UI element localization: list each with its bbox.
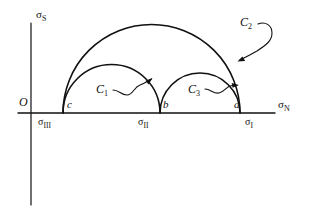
sigma-subscript-i: I [250, 121, 253, 130]
circle-label-c1: C1 [96, 83, 108, 98]
c1-letter: C [96, 82, 104, 96]
diagram-canvas [0, 0, 310, 211]
tick-label-sigma-i: σI [245, 117, 253, 130]
c2-subscript: 2 [248, 22, 252, 31]
mohr-circle-figure: σS σN O c b a σIII σII σI C1 C2 C3 [0, 0, 310, 211]
shear-stress-axis-label: σS [36, 9, 46, 23]
point-label-c: c [67, 99, 72, 110]
point-label-b: b [163, 99, 169, 110]
c3-subscript: 3 [196, 89, 200, 98]
c1-subscript: 1 [104, 89, 108, 98]
sigma-subscript-iii: III [43, 121, 51, 130]
c3-letter: C [188, 82, 196, 96]
arrowhead-c2 [238, 57, 246, 62]
circle-label-c3: C3 [188, 83, 200, 98]
c2-letter: C [240, 15, 248, 29]
normal-stress-axis-label: σN [278, 99, 290, 113]
sigma-subscript-ii: II [143, 121, 148, 130]
sigma-subscript-s: S [42, 14, 46, 23]
leader-line-c1 [113, 79, 152, 95]
circle-label-c2: C2 [240, 16, 252, 31]
mohr-semicircle-c1 [63, 65, 160, 114]
tick-label-sigma-iii: σIII [38, 117, 51, 130]
origin-label: O [19, 96, 28, 108]
sigma-subscript-n: N [284, 104, 290, 113]
tick-label-sigma-ii: σII [138, 117, 148, 130]
point-label-a: a [234, 99, 240, 110]
